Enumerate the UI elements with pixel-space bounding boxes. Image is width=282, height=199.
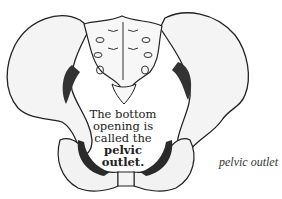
pelvic-outlet-caption: pelvic outlet — [219, 155, 278, 170]
label-line-5-period: . — [140, 155, 144, 169]
left-iliac-wing — [7, 16, 92, 154]
right-iliac-wing — [160, 13, 248, 153]
pubic-symphysis — [118, 172, 134, 186]
label-line-5: outlet. — [86, 156, 160, 168]
coccyx — [112, 84, 136, 104]
label-line-5-word: outlet — [102, 155, 140, 169]
pelvic-outlet-explanation: The bottom opening is called the pelvic … — [86, 108, 160, 168]
pelvis-illustration: The bottom opening is called the pelvic … — [0, 0, 282, 199]
